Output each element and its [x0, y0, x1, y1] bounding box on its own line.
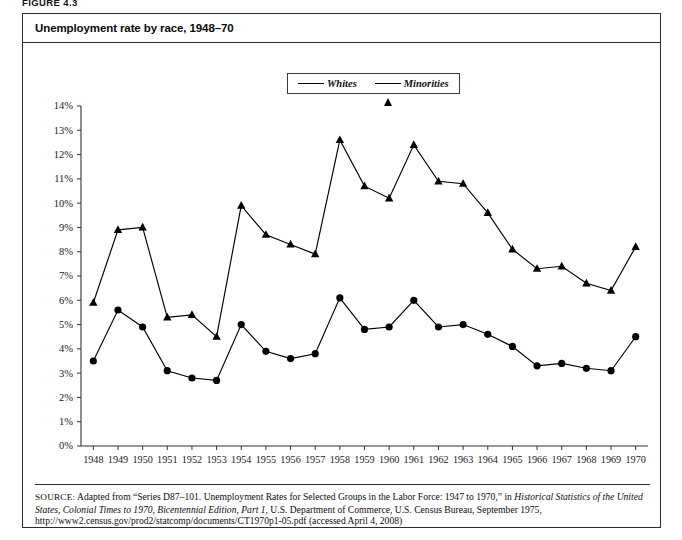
- data-point-whites: [386, 323, 393, 330]
- source-label: SOURCE:: [35, 492, 75, 502]
- x-axis-tick-label: 1963: [453, 454, 473, 465]
- data-point-whites: [312, 350, 319, 357]
- x-axis-tick-label: 1958: [330, 454, 350, 465]
- data-point-minorities: [360, 182, 368, 190]
- data-point-whites: [607, 367, 614, 374]
- data-point-whites: [287, 355, 294, 362]
- legend-entry-minorities: Minorities: [375, 78, 449, 89]
- data-point-whites: [336, 294, 343, 301]
- x-axis-tick-label: 1952: [182, 454, 202, 465]
- data-point-whites: [262, 348, 269, 355]
- figure-frame: Unemployment rate by race, 1948–70 White…: [22, 13, 661, 528]
- y-axis-tick-label: 11%: [54, 173, 73, 184]
- x-axis-tick-label: 1969: [601, 454, 621, 465]
- data-point-whites: [164, 367, 171, 374]
- y-axis-tick-label: 3%: [59, 368, 73, 379]
- data-point-minorities: [89, 298, 97, 306]
- data-point-minorities: [582, 279, 590, 287]
- x-axis-tick-label: 1954: [231, 454, 251, 465]
- y-axis-tick-label: 2%: [59, 392, 73, 403]
- data-point-whites: [509, 343, 516, 350]
- x-axis-tick-label: 1955: [256, 454, 276, 465]
- x-axis-tick-label: 1967: [552, 454, 572, 465]
- x-axis-tick-label: 1948: [83, 454, 103, 465]
- source-text-1: Adapted from “Series D87–101. Unemployme…: [75, 491, 514, 502]
- data-point-minorities: [188, 310, 196, 318]
- x-axis-tick-label: 1950: [132, 454, 152, 465]
- x-axis-tick-label: 1951: [157, 454, 177, 465]
- data-point-minorities: [237, 201, 245, 209]
- x-axis-tick-label: 1960: [379, 454, 399, 465]
- data-point-whites: [460, 321, 467, 328]
- x-axis-tick-label: 1956: [280, 454, 300, 465]
- y-axis-tick-label: 0%: [59, 440, 73, 451]
- x-axis-tick-label: 1964: [478, 454, 498, 465]
- figure-number-label: FIGURE 4.3: [22, 0, 78, 8]
- source-note: SOURCE: Adapted from “Series D87–101. Un…: [35, 484, 650, 527]
- data-point-minorities: [336, 135, 344, 143]
- data-point-whites: [90, 357, 97, 364]
- data-point-whites: [583, 365, 590, 372]
- y-axis-tick-label: 4%: [59, 343, 73, 354]
- figure-page: FIGURE 4.3 Unemployment rate by race, 19…: [0, 0, 682, 540]
- data-point-whites: [558, 360, 565, 367]
- y-axis-tick-label: 1%: [59, 416, 73, 427]
- data-point-whites: [410, 297, 417, 304]
- y-axis-tick-label: 14%: [54, 100, 74, 111]
- y-axis-tick-label: 8%: [59, 246, 73, 257]
- chart-legend: Whites Minorities: [287, 73, 460, 94]
- legend-line-whites: [298, 79, 324, 89]
- data-point-whites: [139, 323, 146, 330]
- data-point-minorities: [385, 194, 393, 202]
- chart-plot-area: 0%1%2%3%4%5%6%7%8%9%10%11%12%13%14%19481…: [23, 94, 662, 494]
- x-axis-tick-label: 1965: [502, 454, 522, 465]
- y-axis-tick-label: 10%: [54, 198, 74, 209]
- x-axis-tick-label: 1957: [305, 454, 325, 465]
- data-point-whites: [361, 326, 368, 333]
- x-axis-tick-label: 1953: [206, 454, 226, 465]
- data-point-whites: [213, 377, 220, 384]
- legend-entry-whites: Whites: [298, 78, 357, 89]
- line-chart: 0%1%2%3%4%5%6%7%8%9%10%11%12%13%14%19481…: [23, 94, 662, 494]
- y-axis-tick-label: 7%: [59, 270, 73, 281]
- y-axis-tick-label: 6%: [59, 295, 73, 306]
- page-title: Unemployment rate by race, 1948–70: [35, 22, 234, 34]
- x-axis-tick-label: 1968: [576, 454, 596, 465]
- data-point-minorities: [212, 332, 220, 340]
- x-axis-tick-label: 1961: [404, 454, 424, 465]
- data-point-minorities: [631, 242, 639, 250]
- data-point-whites: [484, 331, 491, 338]
- legend-label-minorities: Minorities: [404, 78, 449, 89]
- x-axis-tick-label: 1970: [625, 454, 645, 465]
- x-axis-tick-label: 1949: [108, 454, 128, 465]
- legend-label-whites: Whites: [327, 78, 357, 89]
- x-axis-tick-label: 1959: [354, 454, 374, 465]
- y-axis-tick-label: 13%: [54, 125, 74, 136]
- data-point-minorities: [138, 223, 146, 231]
- y-axis-tick-label: 9%: [59, 222, 73, 233]
- x-axis-tick-label: 1962: [428, 454, 448, 465]
- data-point-whites: [632, 333, 639, 340]
- data-point-whites: [238, 321, 245, 328]
- data-point-minorities: [558, 262, 566, 270]
- legend-line-minorities: [375, 79, 401, 89]
- data-point-whites: [188, 374, 195, 381]
- x-axis-tick-label: 1966: [527, 454, 547, 465]
- data-point-whites: [114, 306, 121, 313]
- series-line-whites: [93, 298, 635, 381]
- y-axis-tick-label: 5%: [59, 319, 73, 330]
- data-point-whites: [435, 323, 442, 330]
- data-point-whites: [533, 362, 540, 369]
- series-line-minorities: [93, 140, 635, 337]
- y-axis-tick-label: 12%: [54, 149, 74, 160]
- data-point-minorities: [410, 140, 418, 148]
